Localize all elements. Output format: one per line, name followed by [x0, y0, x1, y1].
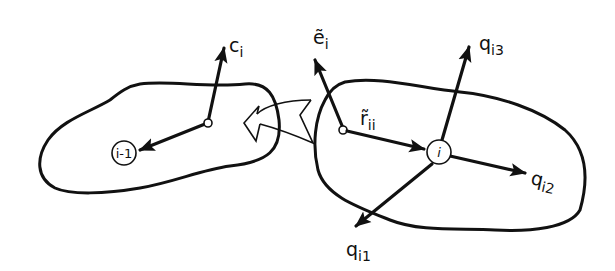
joint-point-left: [204, 119, 212, 127]
body-outline-i-minus-1: [40, 83, 280, 193]
kinematic-diagram: i-1 ci ẽi r̃ii i qi3 qi2 qi1: [0, 0, 615, 271]
vector-r-ii: [347, 131, 424, 149]
label-q-i1: qi1: [346, 238, 371, 264]
node-i: i: [427, 140, 451, 164]
svg-text:i: i: [437, 145, 441, 160]
svg-text:i-1: i-1: [116, 146, 133, 161]
node-i-minus-1: i-1: [112, 141, 136, 165]
label-r-ii: r̃ii: [360, 107, 376, 133]
vector-q-i1: [356, 164, 432, 226]
label-q-i2: qi2: [528, 166, 558, 197]
label-q-i3: qi3: [479, 32, 504, 58]
label-e-i: ẽi: [313, 26, 329, 52]
vector-to-i-minus-1: [140, 124, 205, 150]
label-c-i: ci: [229, 34, 243, 60]
vector-q-i2: [450, 156, 525, 173]
